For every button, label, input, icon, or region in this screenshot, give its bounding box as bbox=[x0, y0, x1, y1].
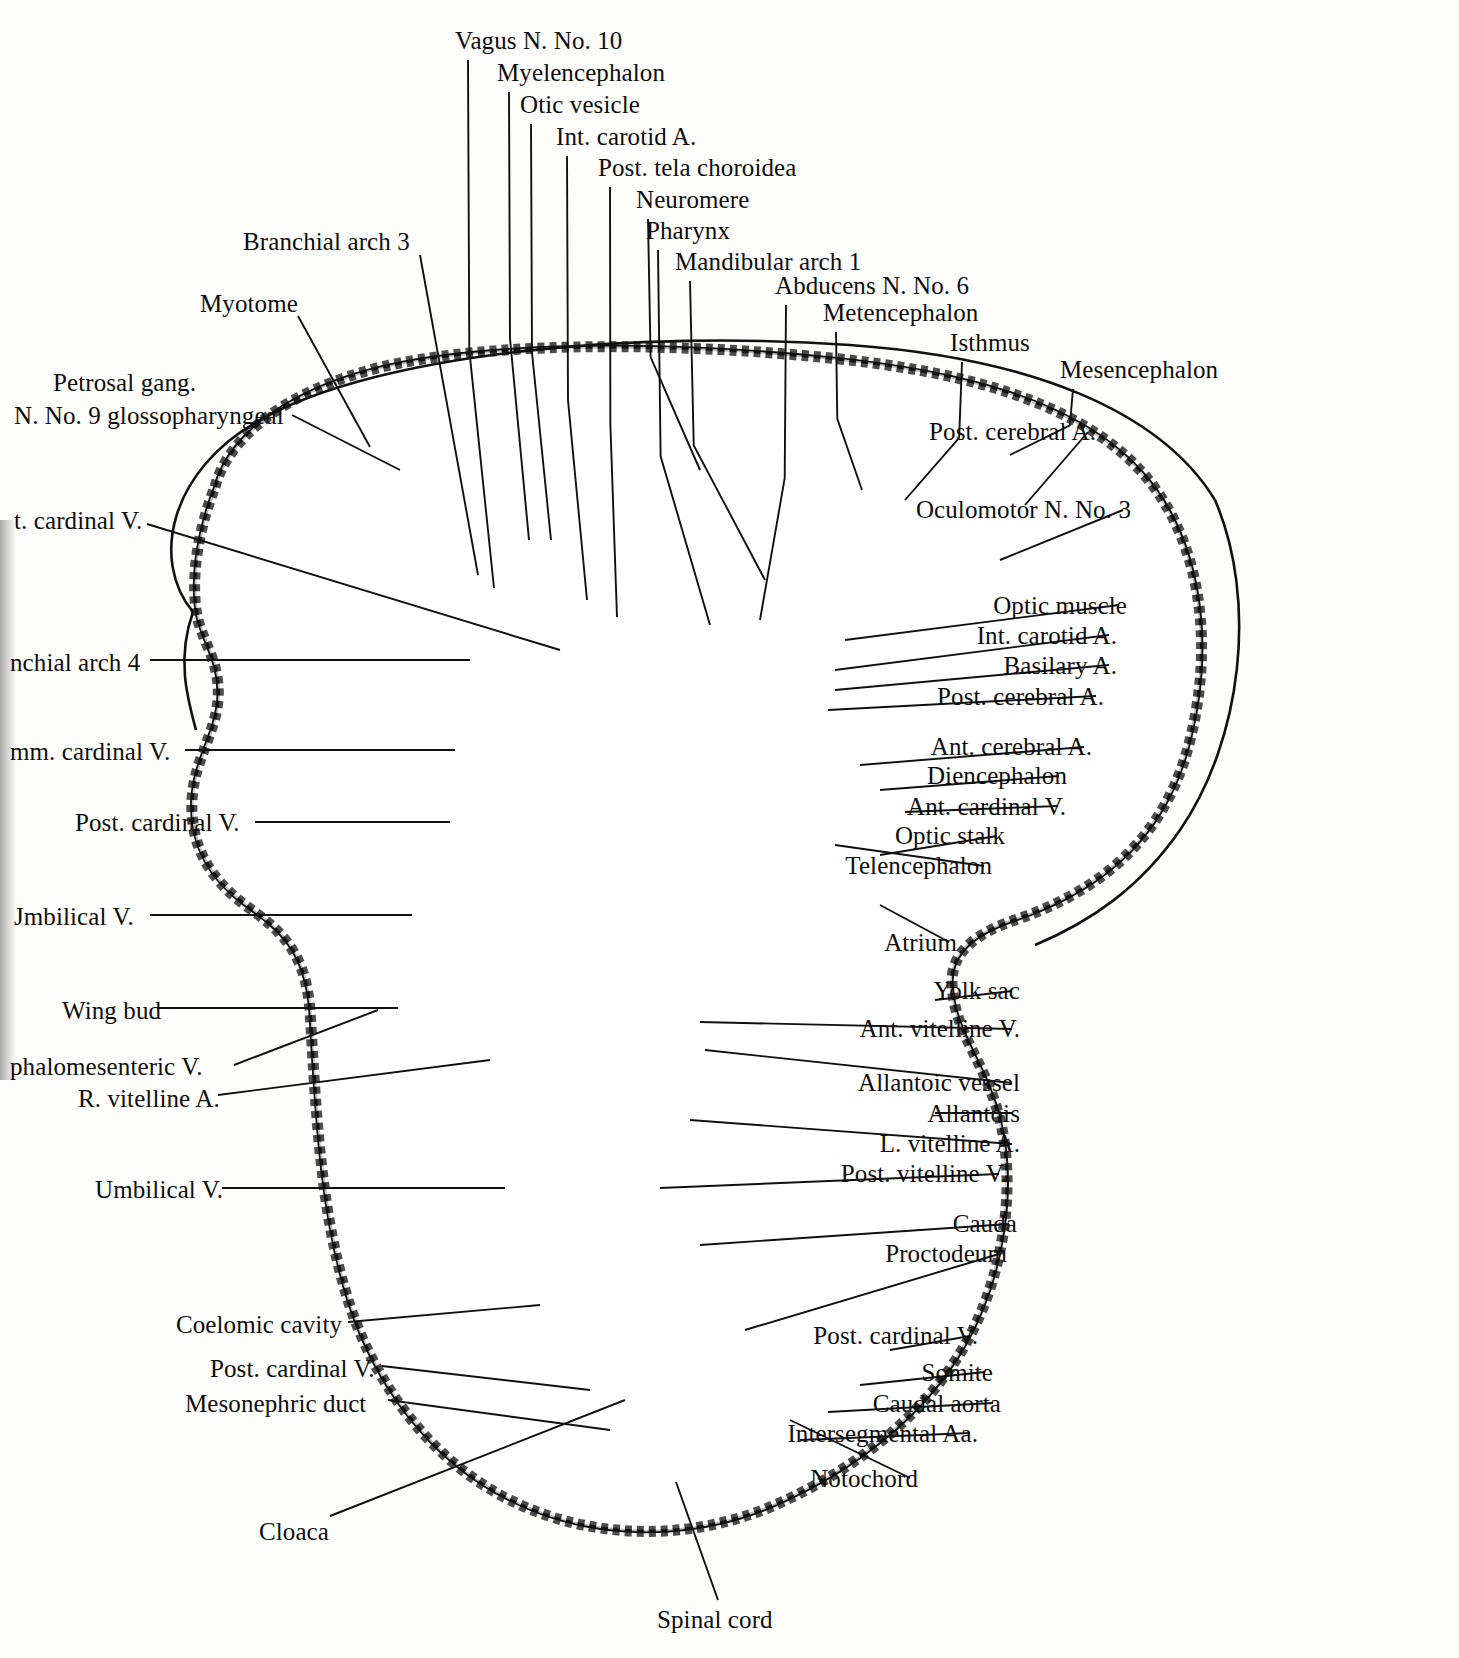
label-myotome: Myotome bbox=[200, 291, 298, 317]
label-n-no-9-glossopharyngeal: N. No. 9 glossopharyngeal bbox=[14, 403, 284, 429]
label-post-cardinal-v: Post. cardinal V. bbox=[75, 810, 240, 836]
label-umbilical-v: Umbilical V. bbox=[95, 1177, 223, 1203]
leader-metencephalon bbox=[836, 332, 862, 490]
label-atrium: Atrium bbox=[884, 930, 957, 956]
label-vagus-n-no-10: Vagus N. No. 10 bbox=[455, 28, 622, 54]
leader-vagus-n-no-10 bbox=[468, 60, 494, 588]
label-phalomesenteric-v: phalomesenteric V. bbox=[10, 1054, 203, 1080]
label-spinal-cord: Spinal cord bbox=[657, 1607, 773, 1633]
label-otic-vesicle: Otic vesicle bbox=[520, 92, 640, 118]
label-allantois: Allantois bbox=[927, 1101, 1020, 1127]
label-abducens-n-no-6: Abducens N. No. 6 bbox=[775, 273, 969, 299]
label-isthmus: Isthmus bbox=[950, 330, 1030, 356]
leader-otic-vesicle bbox=[531, 124, 551, 540]
label-mm-cardinal-v: mm. cardinal V. bbox=[10, 739, 170, 765]
label-allantoic-vessel: Allantoic vessel bbox=[858, 1070, 1020, 1096]
label-t-cardinal-v: t. cardinal V. bbox=[14, 508, 142, 534]
label-post-vitelline-v: Post. vitelline V. bbox=[841, 1161, 1007, 1187]
leader-myotome bbox=[298, 316, 370, 447]
label-myelencephalon: Myelencephalon bbox=[497, 60, 665, 86]
label-intersegmental-aa: Intersegmental Aa. bbox=[787, 1421, 978, 1447]
label-ant-cardinal-v: Ant. cardinal V. bbox=[907, 794, 1066, 820]
leader-abducens-n-no-6 bbox=[760, 305, 786, 620]
label-optic-stalk: Optic stalk bbox=[895, 823, 1005, 849]
label-l-vitelline-a: L. vitelline A. bbox=[880, 1131, 1020, 1157]
label-basilary-a: Basilary A. bbox=[1003, 653, 1117, 679]
label-int-carotid-a: Int. carotid A. bbox=[977, 623, 1117, 649]
leader-cloaca bbox=[330, 1400, 625, 1516]
label-metencephalon: Metencephalon bbox=[823, 300, 978, 326]
leader-int-carotid-a bbox=[567, 156, 587, 600]
label-neuromere: Neuromere bbox=[636, 187, 749, 213]
label-post-cerebral-a: Post. cerebral A. bbox=[929, 419, 1096, 445]
label-post-cerebral-a: Post. cerebral A. bbox=[937, 684, 1104, 710]
leader-post-cardinal-v bbox=[382, 1366, 590, 1390]
figure-canvas: Vagus N. No. 10MyelencephalonOtic vesicl… bbox=[0, 0, 1459, 1658]
leader-spinal-cord bbox=[676, 1482, 718, 1600]
label-ant-cerebral-a: Ant. cerebral A. bbox=[931, 734, 1092, 760]
leader-coelomic-cavity bbox=[348, 1305, 540, 1322]
leader-r-vitelline-a bbox=[218, 1060, 490, 1095]
label-post-tela-choroidea: Post. tela choroidea bbox=[598, 155, 796, 181]
label-petrosal-gang: Petrosal gang. bbox=[53, 370, 196, 396]
label-branchial-arch-3: Branchial arch 3 bbox=[243, 229, 410, 255]
label-pharynx: Pharynx bbox=[646, 218, 730, 244]
leader-t-cardinal-v bbox=[147, 524, 560, 650]
label-cauda: Cauda bbox=[953, 1211, 1017, 1237]
label-diencephalon: Diencephalon bbox=[927, 763, 1067, 789]
leader-n-no-9-glossopharyngeal bbox=[292, 415, 400, 470]
label-wing-bud: Wing bud bbox=[62, 998, 161, 1024]
label-optic-muscle: Optic muscle bbox=[993, 593, 1127, 619]
leader-post-tela-choroidea bbox=[610, 187, 617, 617]
label-post-cardinal-v: Post. cardinal V. bbox=[210, 1356, 375, 1382]
leader-mesonephric-duct bbox=[388, 1400, 610, 1430]
label-notochord: Notochord bbox=[810, 1466, 918, 1492]
label-post-cardinal-v: Post. cardinal V. bbox=[813, 1323, 978, 1349]
label-coelomic-cavity: Coelomic cavity bbox=[176, 1312, 342, 1338]
label-caudal-aorta: Caudal aorta bbox=[873, 1391, 1001, 1417]
leader-myelencephalon bbox=[509, 92, 529, 540]
label-somite: Somite bbox=[922, 1360, 993, 1386]
label-ant-vitelline-v: Ant. vitelline V. bbox=[859, 1016, 1020, 1042]
label-mesonephric-duct: Mesonephric duct bbox=[185, 1391, 366, 1417]
label-telencephalon: Telencephalon bbox=[845, 853, 992, 879]
label-cloaca: Cloaca bbox=[259, 1519, 329, 1545]
label-nchial-arch-4: nchial arch 4 bbox=[10, 650, 140, 676]
label-oculomotor-n-no-3: Oculomotor N. No. 3 bbox=[916, 497, 1131, 523]
label-proctodeum: Proctodeum bbox=[885, 1241, 1007, 1267]
leader-pharynx bbox=[658, 250, 710, 625]
label-jmbilical-v: Jmbilical V. bbox=[14, 904, 134, 930]
label-mesencephalon: Mesencephalon bbox=[1060, 357, 1218, 383]
label-r-vitelline-a: R. vitelline A. bbox=[78, 1086, 220, 1112]
leader-mandibular-arch-1 bbox=[690, 281, 765, 580]
leader-phalomesenteric-v bbox=[234, 1010, 378, 1065]
label-yolk-sac: Yolk sac bbox=[934, 978, 1020, 1004]
label-int-carotid-a: Int. carotid A. bbox=[556, 124, 696, 150]
